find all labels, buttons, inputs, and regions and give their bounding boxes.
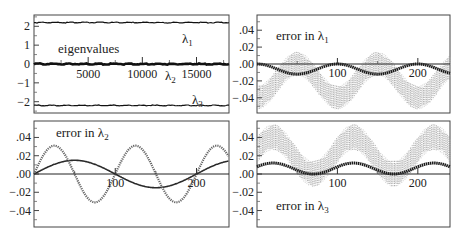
panel-eigenvalues: 210−1−2 50001000015000 eigenvalues λ1 λ2… (17, 15, 229, 113)
y-tick-label: .02 (239, 149, 254, 163)
label-lambda2: λ2 (165, 68, 176, 85)
eigenvalue-line-λ1 (34, 22, 229, 23)
figure: 210−1−2 50001000015000 eigenvalues λ1 λ2… (0, 0, 467, 239)
panel-error-lambda2: .04.02.00−.02−.04100200 error in λ2 (9, 121, 229, 227)
label-lambda3: λ3 (192, 92, 203, 109)
axes: .04.02.00−.02−.04100200 (9, 128, 229, 219)
y-tick-label: .00 (239, 167, 254, 181)
y-tick-label: 1 (24, 38, 30, 52)
annotation-error-lambda2: error in λ2 (56, 125, 109, 142)
panel-error-lambda1: .04.02.00−.02−.04100200 error in λ1 (232, 15, 450, 113)
y-tick-label: −.04 (232, 204, 254, 218)
error-lambda1-plot (257, 52, 450, 110)
x-tick-label: 200 (188, 176, 206, 190)
y-tick-label: .00 (16, 167, 31, 181)
y-tick-label: −.02 (9, 185, 31, 199)
y-tick-label: −1 (17, 76, 30, 90)
y-tick-label: 0 (24, 57, 30, 71)
mean-error-curve (257, 163, 450, 174)
annotation-error-lambda1: error in λ1 (276, 28, 329, 45)
y-tick-label: .00 (239, 57, 254, 71)
y-tick-label: −.04 (232, 91, 254, 105)
x-tick-label: 15000 (182, 67, 212, 81)
eigenvalue-line-λ2 (34, 63, 229, 64)
x-tick-label: 200 (409, 66, 427, 80)
y-tick-label: .04 (16, 130, 31, 144)
x-axis-ticks: 50001000015000 (61, 57, 224, 81)
x-tick-label: 10000 (127, 67, 157, 81)
annotation-eigenvalues: eigenvalues (58, 41, 119, 56)
y-tick-label: −.04 (9, 204, 31, 218)
panel-error-lambda3: .04.02.00−.02−.04100200 error in λ3 (232, 121, 450, 227)
y-tick-label: .04 (239, 23, 254, 37)
x-tick-label: 100 (106, 176, 124, 190)
x-tick-label: 100 (328, 176, 346, 190)
y-tick-label: .02 (16, 149, 31, 163)
annotation-error-lambda3: error in λ3 (276, 198, 329, 215)
y-tick-label: .04 (239, 130, 254, 144)
y-tick-label: −.02 (232, 74, 254, 88)
x-tick-label: 100 (328, 66, 346, 80)
y-tick-label: −.02 (232, 185, 254, 199)
y-tick-label: .02 (239, 40, 254, 54)
x-tick-label: 5000 (76, 67, 100, 81)
x-tick-label: 200 (409, 176, 427, 190)
y-tick-label: −2 (17, 95, 30, 109)
eigenvalue-lines (34, 22, 229, 106)
label-lambda1: λ1 (182, 31, 193, 48)
y-tick-label: 2 (24, 19, 30, 33)
